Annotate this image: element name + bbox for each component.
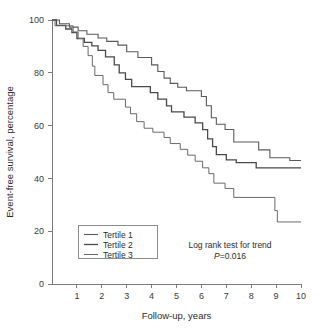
- x-tick-label-1: 1: [74, 291, 79, 301]
- curve-tertile-2: [52, 20, 301, 168]
- legend: Tertile 1 Tertile 2 Tertile 3: [79, 226, 158, 260]
- legend-item-tertile-1[interactable]: Tertile 1: [84, 230, 133, 240]
- x-tick-label-9: 9: [274, 291, 279, 301]
- x-tick-label-5: 5: [174, 291, 179, 301]
- legend-label-tertile-1: Tertile 1: [103, 230, 133, 240]
- y-tick-label-60: 60: [34, 121, 44, 131]
- legend-item-tertile-2[interactable]: Tertile 2: [84, 240, 133, 250]
- x-tick-label-4: 4: [149, 291, 154, 301]
- x-tick-label-6: 6: [199, 291, 204, 301]
- curve-tertile-3: [52, 20, 301, 222]
- figure-container: 0 20 40 60 80 100 1 2 3 4 5 6: [0, 0, 316, 336]
- y-tick-label-0: 0: [39, 279, 44, 289]
- x-tick-label-7: 7: [224, 291, 229, 301]
- y-tick-label-20: 20: [34, 226, 44, 236]
- legend-label-tertile-3: Tertile 3: [103, 250, 133, 260]
- y-tick-label-80: 80: [34, 68, 44, 78]
- x-axis-title: Follow-up, years: [142, 310, 212, 321]
- legend-item-tertile-3[interactable]: Tertile 3: [84, 250, 133, 260]
- y-tick-label-40: 40: [34, 174, 44, 184]
- x-tick-label-10: 10: [296, 291, 306, 301]
- survival-curves: [52, 20, 301, 222]
- log-rank-label: Log rank test for trend: [188, 240, 271, 250]
- x-tick-label-2: 2: [99, 291, 104, 301]
- y-axis-tick-labels: 0 20 40 60 80 100: [29, 15, 44, 289]
- kaplan-meier-chart: 0 20 40 60 80 100 1 2 3 4 5 6: [0, 0, 316, 336]
- x-axis-tick-labels: 1 2 3 4 5 6 7 8 9 10: [74, 291, 306, 301]
- legend-label-tertile-2: Tertile 2: [103, 240, 133, 250]
- curve-tertile-1: [52, 20, 301, 160]
- statistics-annotation: Log rank test for trend P=0.016: [188, 240, 271, 261]
- p-value-label: P=0.016: [214, 251, 246, 261]
- x-axis-ticks: [77, 284, 301, 288]
- x-tick-label-3: 3: [124, 291, 129, 301]
- x-tick-label-8: 8: [249, 291, 254, 301]
- y-axis-ticks: [48, 20, 52, 284]
- y-axis-title: Event-free survival, percentage: [4, 86, 15, 217]
- y-tick-label-100: 100: [29, 15, 44, 25]
